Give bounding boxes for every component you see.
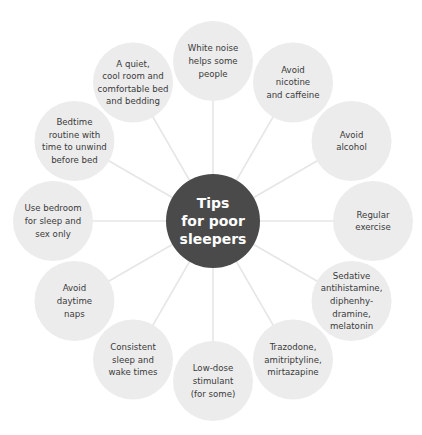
tip-label-line: wake times (109, 367, 158, 377)
tip-label-line: Avoid (63, 283, 87, 293)
tip-bedtime-routine: Bedtimeroutine withtime to unwindbefore … (34, 101, 114, 181)
tip-label-line: and bedding (106, 96, 160, 106)
tip-label-line: time to unwind (42, 142, 107, 152)
tip-label-line: cool room and (102, 71, 164, 81)
tip-label-line: and caffeine (266, 90, 319, 100)
tip-label: Low-dosestimulant(for some) (191, 363, 236, 398)
tip-label-line: helps some (188, 56, 237, 66)
tip-label-line: Trazodone, (269, 342, 317, 352)
tip-label-line: Regular (357, 210, 390, 220)
tip-circle (34, 101, 114, 181)
tip-label-line: A quiet, (116, 59, 149, 69)
tip-label: Trazodone,amitriptyline,mirtazapine (264, 342, 321, 377)
tip-regular-exercise: Regularexercise (333, 181, 413, 261)
tip-label-line: Use bedroom (24, 203, 81, 213)
tip-circle (93, 42, 173, 122)
tip-avoid-alcohol: Avoidalcohol (312, 101, 392, 181)
tip-circle (333, 181, 413, 261)
tip-label-line: (for some) (191, 389, 236, 399)
tip-low-dose-stimulant: Low-dosestimulant(for some) (173, 341, 253, 421)
tip-bedroom-sleep-sex-only: Use bedroomfor sleep andsex only (13, 181, 93, 261)
tip-label-line: dramine, (332, 309, 370, 319)
tip-label-line: mirtazapine (267, 367, 318, 377)
tip-label-line: sleep and (112, 355, 154, 365)
tip-consistent-sleep-wake: Consistentsleep andwake times (93, 320, 173, 400)
tip-label-line: Avoid (340, 130, 364, 140)
tip-label-line: people (198, 69, 227, 79)
tip-label-line: nicotine (276, 77, 310, 87)
tip-label-line: Consistent (110, 342, 156, 352)
center-title-line: sleepers (180, 231, 247, 247)
tip-label-line: antihistamine, (321, 283, 383, 293)
tip-label-line: for sleep and (25, 216, 81, 226)
tip-avoid-daytime-naps: Avoiddaytimenaps (34, 261, 114, 341)
tips-diagram: White noisehelps somepeopleAvoidnicotine… (0, 0, 422, 435)
tip-label-line: exercise (355, 222, 390, 232)
tip-white-noise: White noisehelps somepeople (173, 21, 253, 101)
tip-circle (312, 101, 392, 181)
tip-label-line: Avoid (281, 65, 305, 75)
tip-label-line: comfortable bed (98, 84, 169, 94)
tip-label-line: diphenhy- (330, 296, 373, 306)
tip-trazodone: Trazodone,amitriptyline,mirtazapine (253, 320, 333, 400)
tip-quiet-cool-room: A quiet,cool room andcomfortable bedand … (93, 42, 173, 122)
tip-label-line: stimulant (193, 376, 234, 386)
tip-label-line: alcohol (336, 142, 367, 152)
tip-label-line: Bedtime (56, 117, 92, 127)
tip-label-line: before bed (51, 155, 98, 165)
tip-label-line: Low-dose (193, 363, 234, 373)
tip-label-line: naps (64, 309, 85, 319)
tip-label-line: Sedative (333, 271, 371, 281)
tip-label-line: White noise (188, 43, 239, 53)
tip-label: Consistentsleep andwake times (109, 342, 158, 377)
tip-label-line: sex only (35, 229, 71, 239)
tip-label-line: routine with (49, 130, 101, 140)
center-title-line: for poor (181, 213, 245, 229)
tip-label-line: daytime (57, 296, 92, 306)
tip-label-line: amitriptyline, (264, 355, 321, 365)
tip-sedative-antihistamine: Sedativeantihistamine,diphenhy-dramine,m… (312, 261, 392, 341)
center-title-line: Tips (197, 195, 230, 211)
tip-avoid-nicotine-caffeine: Avoidnicotineand caffeine (253, 42, 333, 122)
center-hub: Tipsfor poorsleepers (166, 174, 260, 268)
tip-label-line: melatonin (330, 321, 373, 331)
